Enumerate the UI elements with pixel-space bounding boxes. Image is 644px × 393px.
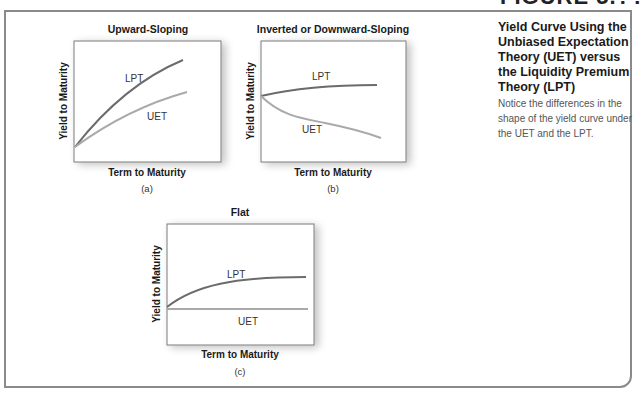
plot-area bbox=[74, 41, 221, 162]
y-axis-label: Yield to Maturity bbox=[58, 62, 69, 140]
panel-label: (a) bbox=[141, 183, 153, 194]
plot-area bbox=[261, 41, 406, 162]
chart-title: Inverted or Downward-Sloping bbox=[257, 23, 409, 35]
x-axis-label: Term to Maturity bbox=[201, 349, 279, 360]
lpt-label: LPT bbox=[312, 71, 330, 82]
lpt-label: LPT bbox=[125, 73, 143, 84]
y-axis-label: Yield to Maturity bbox=[245, 62, 256, 140]
x-axis-label: Term to Maturity bbox=[108, 167, 186, 178]
x-axis-label: Term to Maturity bbox=[294, 167, 372, 178]
lpt-label: LPT bbox=[227, 269, 245, 280]
chart-title: Flat bbox=[231, 206, 250, 218]
uet-label: UET bbox=[238, 316, 258, 327]
chart-title: Upward-Sloping bbox=[108, 23, 189, 35]
y-axis-label: Yield to Maturity bbox=[151, 245, 162, 323]
panel-label: (c) bbox=[234, 366, 245, 377]
uet-label: UET bbox=[147, 111, 167, 122]
chart-flat: Flat LPT UET Term to Maturity Yield to M… bbox=[151, 206, 314, 377]
chart-upward-sloping: Upward-Sloping LPT UET Term to Maturity … bbox=[58, 23, 221, 194]
uet-label: UET bbox=[302, 124, 322, 135]
panel-label: (b) bbox=[327, 183, 339, 194]
chart-inverted: Inverted or Downward-Sloping LPT UET Ter… bbox=[245, 23, 409, 194]
